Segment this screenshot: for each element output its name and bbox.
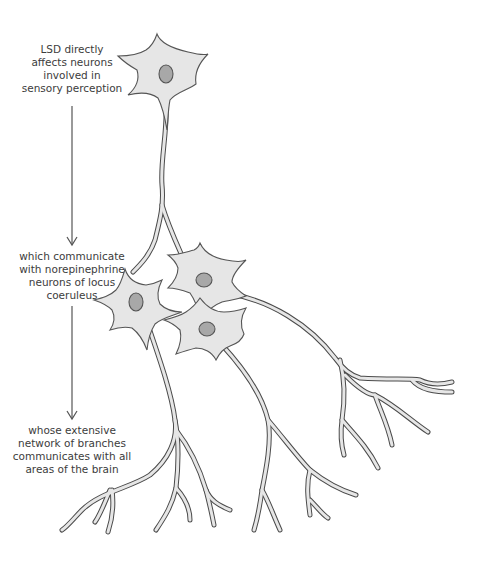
caption-line: areas of the brain xyxy=(0,463,144,476)
caption-line: LSD directly xyxy=(0,43,144,56)
caption-line: neurons of locus xyxy=(0,276,144,289)
caption-line: with norepinephrine xyxy=(0,263,144,276)
caption-step-3: whose extensive network of branches comm… xyxy=(0,424,144,476)
lc-neuron-3-branches xyxy=(222,345,356,530)
lc-neuron-3-nucleus xyxy=(199,322,215,336)
caption-step-1: LSD directly affects neurons involved in… xyxy=(0,43,144,95)
caption-line: communicates with all xyxy=(0,450,144,463)
lc-neuron-2-nucleus xyxy=(196,273,212,287)
caption-line: whose extensive xyxy=(0,424,144,437)
lc-neuron-3 xyxy=(164,298,246,360)
caption-line: coeruleus xyxy=(0,289,144,302)
caption-line: affects neurons xyxy=(0,56,144,69)
arrow-step1-to-step2 xyxy=(67,106,77,245)
caption-line: sensory perception xyxy=(0,82,144,95)
sensory-neuron-nucleus xyxy=(159,65,173,83)
arrow-step2-to-step3 xyxy=(67,306,77,419)
caption-step-2: which communicate with norepinephrine ne… xyxy=(0,250,144,302)
caption-line: network of branches xyxy=(0,437,144,450)
caption-line: which communicate xyxy=(0,250,144,263)
caption-line: involved in xyxy=(0,69,144,82)
lc-neuron-2-branches xyxy=(226,293,452,468)
sensory-neuron-axon xyxy=(133,100,183,272)
